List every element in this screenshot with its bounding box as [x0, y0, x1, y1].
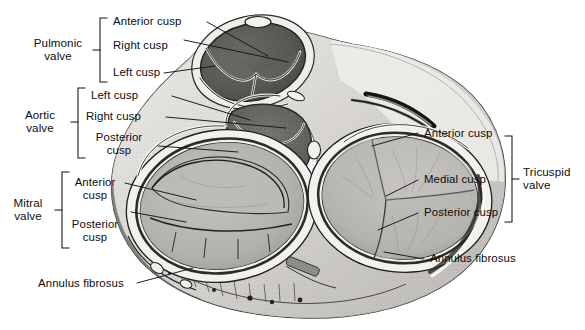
group-label-mitral-valve: Mitral valve: [2, 196, 54, 222]
mitral-posterior-line1: Posterior: [72, 218, 118, 230]
tricuspid-valve-line2: valve: [523, 178, 551, 191]
group-label-pulmonic-valve: Pulmonic valve: [24, 36, 92, 62]
label-mitral-posterior-cusp: Posterior cusp: [62, 218, 128, 244]
mitral-anterior-line1: Anterior: [75, 176, 116, 188]
label-aortic-left-cusp: Left cusp: [91, 89, 138, 102]
label-aortic-posterior-cusp: Posterior cusp: [83, 131, 155, 157]
label-tricuspid-medial-cusp: Medial cusp: [424, 173, 486, 186]
label-annulus-fibrosus-right: Annulus fibrosus: [430, 252, 516, 265]
mitral-anterior-line2: cusp: [83, 189, 107, 201]
pulmonic-valve-line1: Pulmonic: [34, 36, 82, 49]
figure-canvas: Pulmonic valve Aortic valve Mitral valve…: [0, 0, 585, 330]
label-tricuspid-posterior-cusp: Posterior cusp: [424, 206, 498, 219]
tricuspid-valve-line1: Tricuspid: [523, 165, 571, 178]
mitral-posterior-line2: cusp: [83, 231, 107, 243]
aortic-posterior-line1: Posterior: [96, 131, 142, 143]
pulmonic-valve-line2: valve: [44, 49, 72, 62]
label-pulmonic-right-cusp: Right cusp: [113, 39, 168, 52]
label-mitral-anterior-cusp: Anterior cusp: [64, 176, 126, 202]
mitral-valve-line2: valve: [14, 209, 42, 222]
label-annulus-fibrosus-left: Annulus fibrosus: [38, 277, 124, 290]
group-label-tricuspid-valve: Tricuspid valve: [523, 165, 585, 191]
aortic-valve-line2: valve: [26, 121, 54, 134]
label-tricuspid-anterior-cusp: Anterior cusp: [424, 127, 492, 140]
aortic-valve-line1: Aortic: [25, 108, 55, 121]
label-pulmonic-left-cusp: Left cusp: [113, 66, 160, 79]
group-label-aortic-valve: Aortic valve: [10, 108, 70, 134]
label-aortic-right-cusp: Right cusp: [86, 110, 141, 123]
aortic-posterior-line2: cusp: [107, 144, 131, 156]
label-pulmonic-anterior-cusp: Anterior cusp: [113, 15, 181, 28]
mitral-valve-line1: Mitral: [14, 196, 43, 209]
